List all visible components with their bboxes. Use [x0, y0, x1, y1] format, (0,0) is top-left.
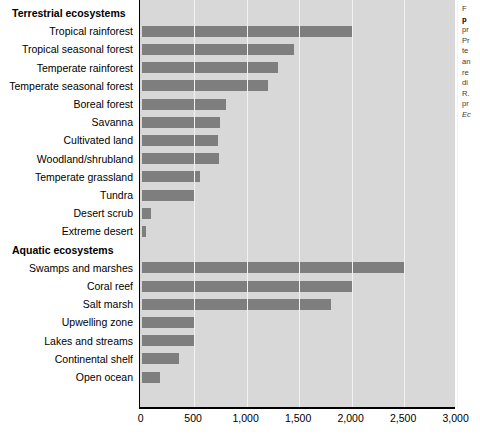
bar — [142, 208, 151, 219]
gridline — [404, 0, 405, 408]
bar — [142, 190, 195, 201]
group-header: Aquatic ecosystems — [0, 244, 136, 256]
bar — [142, 317, 195, 328]
plot-area — [139, 0, 455, 408]
category-label: Temperate grassland — [0, 171, 136, 183]
category-label: Boreal forest — [0, 98, 136, 110]
bar — [142, 62, 279, 73]
bar — [142, 117, 221, 128]
category-label: Swamps and marshes — [0, 262, 136, 274]
category-label: Upwelling zone — [0, 316, 136, 328]
x-axis-line — [139, 407, 455, 409]
bar — [142, 153, 220, 164]
category-label: Woodland/shrubland — [0, 153, 136, 165]
category-label: Tundra — [0, 189, 136, 201]
caption-line: pr — [462, 99, 480, 110]
category-label: Tropical rainforest — [0, 25, 136, 37]
category-label: Salt marsh — [0, 298, 136, 310]
caption-line: di — [462, 78, 480, 89]
category-label: Savanna — [0, 116, 136, 128]
bar — [142, 335, 195, 346]
gridline — [247, 0, 248, 408]
caption-line: R. — [462, 89, 480, 100]
category-label: Coral reef — [0, 280, 136, 292]
category-label: Desert scrub — [0, 207, 136, 219]
caption-line: p — [462, 15, 480, 26]
category-label: Continental shelf — [0, 353, 136, 365]
gridline — [194, 0, 195, 408]
caption-line: pr — [462, 25, 480, 36]
caption-line: F — [462, 4, 480, 15]
caption-line: te — [462, 46, 480, 57]
gridline — [457, 0, 458, 408]
bar — [142, 80, 268, 91]
category-label-column: Terrestrial ecosystemsTropical rainfores… — [0, 0, 136, 408]
net-primary-production-bar-chart: Terrestrial ecosystemsTropical rainfores… — [0, 0, 480, 447]
category-label: Cultivated land — [0, 134, 136, 146]
caption-line: re — [462, 68, 480, 79]
bar — [142, 226, 146, 237]
category-label: Temperate rainforest — [0, 62, 136, 74]
gridline — [352, 0, 353, 408]
bar — [142, 299, 331, 310]
gridline — [299, 0, 300, 408]
group-header: Terrestrial ecosystems — [0, 7, 136, 19]
x-tick-label: 1,000 — [232, 412, 258, 424]
bar — [142, 353, 180, 364]
caption-line: Ec — [462, 110, 480, 121]
bar — [142, 135, 219, 146]
x-axis-tick-labels: 05001,0001,5002,0002,5003,000 — [0, 412, 480, 432]
bar — [142, 262, 405, 273]
bar — [142, 44, 294, 55]
x-tick-label: 500 — [184, 412, 202, 424]
category-label: Tropical seasonal forest — [0, 43, 136, 55]
x-tick-label: 0 — [138, 412, 144, 424]
category-label: Temperate seasonal forest — [0, 80, 136, 92]
category-label: Open ocean — [0, 371, 136, 383]
bar — [142, 99, 226, 110]
x-tick-label: 3,000 — [442, 412, 468, 424]
x-tick-label: 1,500 — [285, 412, 311, 424]
caption-line: an — [462, 57, 480, 68]
category-label: Extreme desert — [0, 225, 136, 237]
x-tick-label: 2,500 — [390, 412, 416, 424]
category-label: Lakes and streams — [0, 335, 136, 347]
x-tick-label: 2,000 — [337, 412, 363, 424]
bar — [142, 372, 161, 383]
figure-caption: FpprPrteanrediR.prEc — [462, 4, 480, 121]
caption-line: Pr — [462, 36, 480, 47]
bar — [142, 171, 201, 182]
